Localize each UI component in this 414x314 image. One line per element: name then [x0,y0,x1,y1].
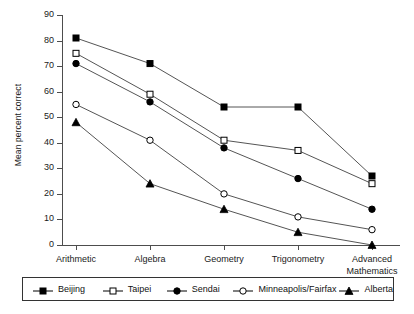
y-axis-title: Mean percent correct [13,55,23,195]
marker-filled-square [221,104,227,110]
legend-item-minneapolis-fairfax[interactable]: Minneapolis/Fairfax [232,283,338,295]
marker-filled-square [369,173,375,179]
series-line [76,53,372,183]
marker-filled-square [295,104,301,110]
marker-filled-circle [221,145,227,151]
marker-open-square [369,181,375,187]
x-tick-mark [298,245,299,250]
y-tick-label: 70 [44,60,54,70]
marker-open-square [73,50,79,56]
x-tick-label-line: Mathematics [317,266,414,278]
series-minneapolis-fairfax [73,101,375,233]
legend-label: Sendai [192,284,220,294]
x-tick-label-5: AdvancedMathematics [317,254,414,277]
marker-filled-triangle [294,228,302,235]
marker-filled-square [40,288,46,294]
legend-marker-filled-triangle-icon [338,283,360,295]
marker-filled-circle [173,288,179,294]
legend-marker-filled-circle-icon [166,283,188,295]
x-tick-mark [150,245,151,250]
legend: BeijingTaipeiSendaiMinneapolis/FairfaxAl… [22,277,394,301]
marker-open-square [221,137,227,143]
marker-open-circle [369,226,375,232]
legend-item-taipei[interactable]: Taipei [102,283,166,295]
y-tick-0: 0 [62,245,63,246]
marker-filled-circle [147,99,153,105]
marker-filled-circle [369,206,375,212]
y-tick-label: 0 [49,239,54,249]
marker-filled-circle [295,175,301,181]
y-tick-label: 20 [44,188,54,198]
y-tick-label: 50 [44,111,54,121]
x-tick-mark [224,245,225,250]
x-axis-line [62,245,400,246]
legend-marker-open-square-icon [102,283,124,295]
marker-filled-triangle [72,118,80,125]
legend-label: Alberta [364,284,393,294]
legend-item-alberta[interactable]: Alberta [338,283,393,295]
x-tick-label-line: Advanced [317,254,414,266]
y-tick-label: 90 [44,9,54,19]
series-line [76,64,372,210]
marker-filled-circle [73,60,79,66]
marker-open-circle [295,214,301,220]
y-tick-label: 30 [44,162,54,172]
legend-marker-filled-square-icon [32,283,54,295]
marker-filled-square [73,35,79,41]
line-chart: Mean percent correct 9080706050403020100… [0,0,414,314]
marker-open-circle [73,101,79,107]
marker-open-circle [221,191,227,197]
marker-filled-triangle [220,205,228,212]
marker-filled-square [147,61,153,67]
y-tick-label: 40 [44,137,54,147]
marker-open-square [295,147,301,153]
y-tick-mark [57,245,62,246]
marker-open-circle [147,137,153,143]
legend-marker-open-circle-icon [232,283,254,295]
legend-label: Taipei [128,284,152,294]
plot-area: 9080706050403020100 ArithmeticAlgebraGeo… [62,15,400,245]
series-layer [62,15,400,245]
x-tick-mark [76,245,77,250]
y-tick-label: 10 [44,213,54,223]
marker-open-circle [240,288,246,294]
marker-open-square [110,288,116,294]
legend-label: Minneapolis/Fairfax [258,284,336,294]
y-tick-label: 60 [44,86,54,96]
y-tick-label: 80 [44,35,54,45]
marker-open-square [147,91,153,97]
series-taipei [73,50,375,186]
legend-item-beijing[interactable]: Beijing [32,283,102,295]
legend-item-sendai[interactable]: Sendai [166,283,233,295]
legend-label: Beijing [58,284,85,294]
